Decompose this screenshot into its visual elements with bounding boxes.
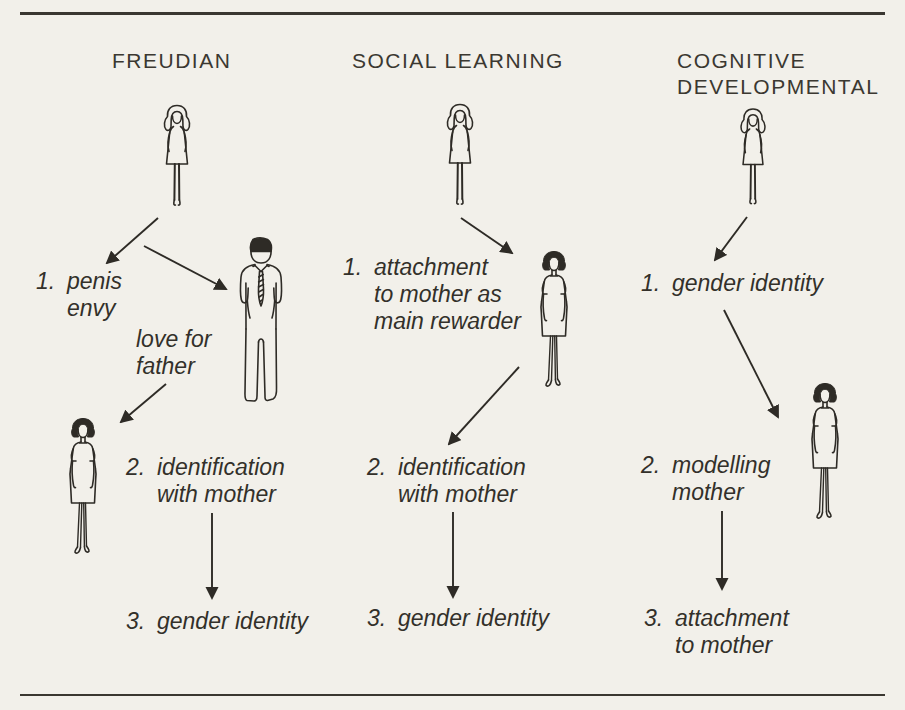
step-number: 1. [343,254,374,335]
arrow-girl-to-penis-envy [107,218,158,263]
freudian-step-3: 3. gender identity [126,608,308,635]
textbook-diagram-page: FREUDIAN SOCIAL LEARNING COGNITIVE DEVEL… [0,0,905,710]
arrow-love-for-father-to-mother [121,384,166,422]
girl-child-figure [157,99,197,213]
step-text: attachment to mother [675,605,789,659]
step-text: modelling mother [672,452,770,506]
love-for-father-label: love for father [136,326,211,380]
step-number: 3. [126,608,157,635]
father-figure [233,230,289,410]
top-divider [20,12,885,15]
cognitive-step-3: 3. attachment to mother [644,605,789,659]
step-text: gender identity [398,605,549,632]
mother-figure [802,372,848,530]
column-title-social-learning: SOCIAL LEARNING [352,48,564,74]
step-number: 1. [36,268,67,322]
mother-figure [531,240,577,398]
arrow-girl-to-gender-identity [715,217,747,260]
step-text: identification with mother [398,454,526,508]
bottom-divider [20,694,885,696]
column-title-freudian: FREUDIAN [112,48,231,74]
step-text: gender identity [157,608,308,635]
mother-figure [60,406,106,566]
step-number: 2. [641,452,672,506]
cognitive-step-1: 1. gender identity [641,270,823,297]
step-text: penis envy [67,268,122,322]
step-number: 1. [641,270,672,297]
column-title-cognitive-developmental: COGNITIVE DEVELOPMENTAL [677,48,879,100]
social-learning-step-2: 2. identification with mother [367,454,526,508]
step-number: 2. [126,454,157,508]
freudian-step-2: 2. identification with mother [126,454,285,508]
arrow-mother-to-identification [449,367,519,444]
step-text: identification with mother [157,454,285,508]
social-learning-step-3: 3. gender identity [367,605,549,632]
girl-child-figure [440,99,480,211]
freudian-step-1: 1. penis envy [36,268,122,322]
step-text: gender identity [672,270,823,297]
step-text: attachment to mother as main rewarder [374,254,521,335]
girl-child-figure [734,102,772,212]
step-number: 2. [367,454,398,508]
cognitive-step-2: 2. modelling mother [641,452,770,506]
social-learning-step-1: 1. attachment to mother as main rewarder [343,254,521,335]
arrow-girl-to-father [144,246,226,289]
arrow-girl-to-mother-rewarder [461,218,512,253]
step-number: 3. [644,605,675,659]
arrow-gender-identity-to-mother [724,310,778,417]
step-number: 3. [367,605,398,632]
